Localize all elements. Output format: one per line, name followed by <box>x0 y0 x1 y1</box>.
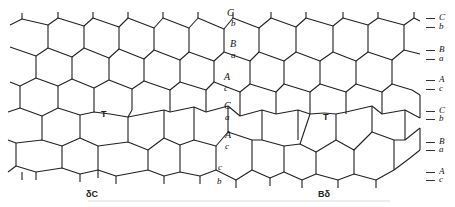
right-label-10: a <box>439 145 444 154</box>
bottom-label-left: δC <box>86 190 98 199</box>
mid-label-2: b <box>231 19 236 28</box>
hexagonal-lattice-figure: C b B a A c C a A c c b C b B a A c C b … <box>0 0 455 207</box>
right-label-8: b <box>439 114 444 123</box>
mid-label-12: b <box>217 177 222 186</box>
mid-label-5: A <box>224 72 230 81</box>
mid-label-7: C <box>224 101 231 110</box>
mid-label-8: a <box>225 113 230 122</box>
top-ticks <box>22 12 414 19</box>
t-marker-left: T <box>101 110 107 119</box>
right-label-2: b <box>439 22 444 31</box>
mid-label-10: c <box>225 142 229 151</box>
mid-label-11: c <box>218 163 222 172</box>
mid-label-1: C <box>227 8 234 17</box>
t-marker-right: T <box>323 113 329 122</box>
mid-label-4: a <box>231 51 236 60</box>
right-label-6: c <box>439 84 443 93</box>
bottom-label-right: Bδ <box>318 190 330 199</box>
right-label-4: a <box>439 54 444 63</box>
right-label-12: c <box>439 175 443 184</box>
mid-label-3: B <box>230 39 236 48</box>
mid-label-9: A <box>225 130 231 139</box>
mid-label-6: c <box>224 84 228 93</box>
